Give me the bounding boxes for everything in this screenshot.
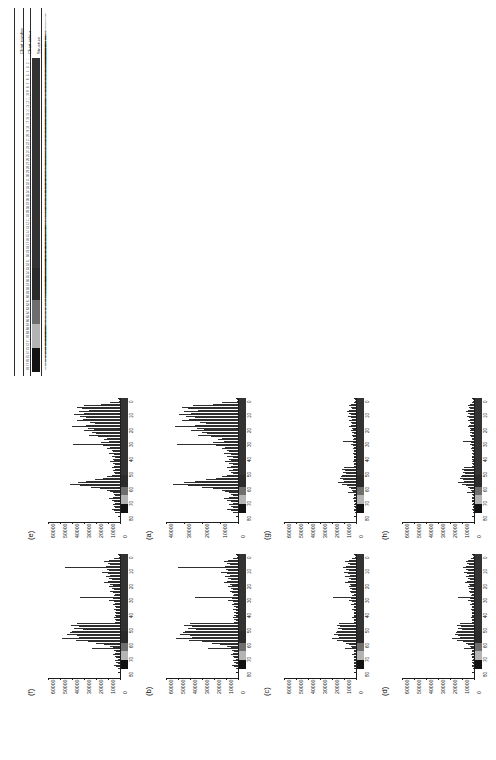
value-axis-tick-label: 60000 [286, 680, 292, 694]
table-row-number: 48 [27, 247, 30, 250]
value-axis-tick [108, 678, 109, 680]
value-axis-tick-label: 60000 [404, 524, 410, 538]
value-axis-tick [332, 678, 333, 680]
category-axis-tick [236, 457, 238, 458]
category-colour-segment [357, 487, 364, 496]
category-axis-tick [118, 657, 120, 658]
value-axis-tick [60, 522, 61, 524]
category-colour-segment [121, 504, 128, 513]
bar [233, 512, 238, 513]
category-axis-tick [236, 428, 238, 429]
category-axis-tick-label: 40 [247, 613, 252, 618]
category-axis-tick-label: 10 [365, 569, 370, 574]
category-colour-segment [357, 660, 364, 669]
category-axis-tick-label: 20 [129, 583, 134, 588]
table-row-number: 3 [27, 67, 30, 68]
value-axis-tick [344, 678, 345, 680]
category-axis-tick [118, 628, 120, 629]
table-row-number: 67 [27, 323, 30, 326]
value-axis-tick [60, 678, 61, 680]
value-axis-tick [462, 678, 463, 680]
category-axis-tick [472, 398, 474, 399]
category-colour-segment [239, 487, 246, 496]
bar [355, 512, 356, 513]
category-colour-segment [357, 475, 364, 487]
bar [115, 512, 120, 513]
value-axis-tick [438, 678, 439, 680]
value-axis-tick-label: 50000 [298, 524, 304, 538]
category-axis-tick [472, 487, 474, 488]
category-axis-tick-label: 30 [129, 442, 134, 447]
category-axis-tick [354, 598, 356, 599]
category-axis-tick-label: 0 [129, 556, 134, 559]
value-axis-tick-label: 40000 [74, 680, 80, 694]
table-row-number: 14 [27, 109, 30, 112]
category-colour-segment [475, 398, 482, 475]
category-axis-tick [118, 501, 120, 502]
value-axis-tick-label: 10000 [222, 524, 228, 538]
table-row-number: 27 [27, 162, 30, 165]
category-axis-tick-label: 70 [365, 657, 370, 662]
category-axis-tick-label: 10 [129, 413, 134, 418]
category-axis-tick-label: 20 [129, 427, 134, 432]
category-axis-tick-label: 20 [247, 427, 252, 432]
value-axis-tick-label: 20000 [98, 524, 104, 538]
value-axis-tick [84, 522, 85, 524]
category-axis-tick-label: 70 [129, 657, 134, 662]
category-colour-segment [121, 398, 128, 475]
table-row-number: 35 [27, 194, 30, 197]
category-axis-tick-label: 50 [483, 628, 488, 633]
value-axis-tick-label: 10000 [110, 524, 116, 538]
category-axis-tick [354, 628, 356, 629]
category-axis-tick [354, 672, 356, 673]
bar [236, 668, 238, 669]
chart-colour-swatch [32, 348, 40, 372]
category-axis-tick [236, 442, 238, 443]
category-colour-segment [357, 504, 364, 513]
category-colour-segment [121, 475, 128, 487]
category-axis-tick [236, 657, 238, 658]
panel-label: (f) [26, 689, 35, 696]
value-axis-tick [320, 522, 321, 524]
category-axis-tick [354, 643, 356, 644]
value-axis-tick-label: 20000 [98, 680, 104, 694]
category-axis-tick [236, 501, 238, 502]
value-axis-tick [96, 522, 97, 524]
table-row-number: 31 [27, 178, 30, 181]
category-axis-tick-label: 0 [247, 400, 252, 403]
category-colour-band [239, 398, 246, 522]
category-colour-segment [357, 631, 364, 643]
value-axis-tick [414, 522, 415, 524]
table-row-number: 39 [27, 210, 30, 213]
category-axis-tick-label: 30 [483, 442, 488, 447]
category-axis-tick [354, 428, 356, 429]
value-axis-tick [120, 678, 121, 680]
category-axis-tick-label: 60 [247, 486, 252, 491]
category-colour-segment [121, 487, 128, 496]
panel-label: (e) [26, 531, 35, 540]
value-axis-tick-label: 40000 [428, 524, 434, 538]
category-axis-tick [118, 398, 120, 399]
category-axis-tick [354, 457, 356, 458]
category-colour-segment [239, 504, 246, 513]
category-axis-tick [118, 516, 120, 517]
value-axis-tick [308, 678, 309, 680]
table-row-number: 10 [27, 93, 30, 96]
category-colour-segment [239, 651, 246, 660]
value-axis-tick [344, 522, 345, 524]
category-axis-tick-label: 80 [365, 672, 370, 677]
chart-panel-a: (a)4000030000200001000000102030405060708… [140, 392, 250, 542]
value-axis-tick [108, 522, 109, 524]
category-axis-tick-label: 40 [365, 457, 370, 462]
category-colour-segment [121, 495, 128, 504]
category-colour-segment [475, 651, 482, 660]
category-axis-tick-label: 80 [483, 516, 488, 521]
table-row-number: 1 [27, 59, 30, 60]
table-row-number: 19 [27, 130, 30, 133]
value-axis-tick-label: 60000 [404, 680, 410, 694]
category-colour-segment [475, 631, 482, 643]
category-axis-tick-label: 30 [483, 598, 488, 603]
category-axis-tick [236, 398, 238, 399]
value-axis-tick [356, 678, 357, 680]
value-axis-tick [426, 678, 427, 680]
